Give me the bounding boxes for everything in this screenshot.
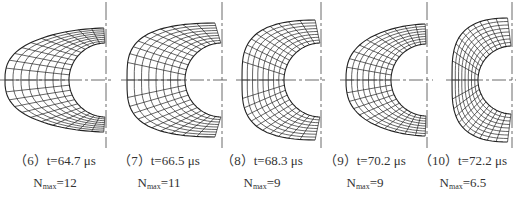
nmax-label: Nmax=11 [104, 172, 214, 194]
nmax-label: Nmax=12 [0, 172, 110, 194]
nmax-label: Nmax=9 [207, 172, 317, 194]
caption-panel-6: （6）t=64.7 μs Nmax=12 [0, 150, 110, 194]
caption-panel-7: （7）t=66.5 μs Nmax=11 [104, 150, 214, 194]
time-label: （9）t=70.2 μs [310, 150, 420, 172]
caption-panel-10: （10）t=72.2 μs Nmax=6.5 [408, 150, 516, 194]
time-label: （6）t=64.7 μs [0, 150, 110, 172]
time-label: （8）t=68.3 μs [207, 150, 317, 172]
nmax-label: Nmax=6.5 [408, 172, 516, 194]
mesh-figure [0, 0, 516, 150]
caption-panel-8: （8）t=68.3 μs Nmax=9 [207, 150, 317, 194]
caption-panel-9: （9）t=70.2 μs Nmax=9 [310, 150, 420, 194]
time-label: （10）t=72.2 μs [408, 150, 516, 172]
nmax-label: Nmax=9 [310, 172, 420, 194]
time-label: （7）t=66.5 μs [104, 150, 214, 172]
